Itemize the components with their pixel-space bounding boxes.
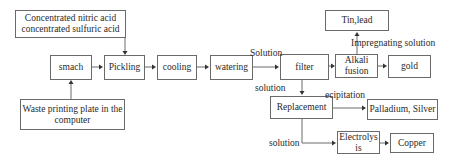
edge-label-solution-mid: solution: [255, 83, 286, 94]
node-tin-lead: Tin,lead: [325, 10, 389, 31]
node-acids-line2: concentrated sulfuric acid: [21, 24, 119, 35]
node-palladium-silver: Palladium, Silver: [367, 99, 438, 120]
node-replacement-label: Replacement: [277, 102, 327, 113]
node-electro-line1: Electrolys: [339, 132, 378, 143]
node-copper-label: Copper: [398, 138, 426, 149]
node-gold: gold: [388, 55, 431, 78]
node-alkali-fusion: Alkali fusion: [335, 54, 378, 78]
node-tin-lead-label: Tin,lead: [341, 15, 372, 26]
node-filter: filter: [280, 54, 329, 80]
edge-label-impregnating: Impregnating solution: [351, 38, 435, 49]
node-smach: smach: [50, 55, 92, 80]
node-acids-line1: Concentrated nitric acid: [25, 13, 116, 24]
edge-label-solution-top: Solution: [250, 48, 282, 59]
node-filter-label: filter: [295, 62, 313, 73]
node-watering-label: watering: [215, 62, 248, 73]
node-alkali-line2: fusion: [345, 66, 369, 77]
node-copper: Copper: [390, 133, 434, 153]
node-electro-line2: is: [355, 143, 361, 154]
node-pd-ag-label: Palladium, Silver: [370, 104, 436, 115]
node-waste-line2: computer: [55, 115, 91, 126]
node-pickling-label: Pickling: [109, 62, 141, 73]
node-replacement: Replacement: [270, 96, 333, 119]
node-electrolysis: Electrolys is: [337, 131, 380, 154]
node-pickling: Pickling: [104, 55, 145, 80]
node-cooling: cooling: [157, 55, 197, 80]
node-alkali-line1: Alkali: [345, 55, 369, 66]
node-smach-label: smach: [59, 62, 83, 73]
edge-label-precipitation: ecipitation: [325, 90, 365, 101]
node-waste-line1: Waste printing plate in the: [22, 104, 122, 115]
node-waste: Waste printing plate in the computer: [20, 99, 125, 130]
node-watering: watering: [210, 55, 253, 80]
node-gold-label: gold: [401, 61, 418, 72]
node-acids: Concentrated nitric acid concentrated su…: [15, 10, 126, 38]
node-cooling-label: cooling: [163, 62, 192, 73]
edge-label-solution-bottom: solution: [269, 138, 300, 149]
